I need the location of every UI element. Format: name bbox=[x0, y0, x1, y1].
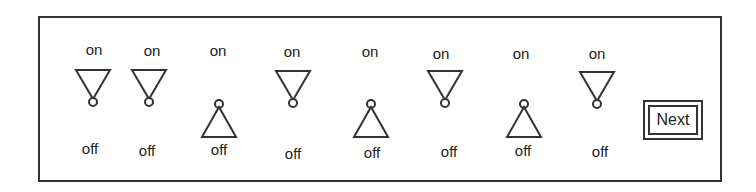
triangle-down-icon bbox=[75, 69, 111, 109]
switch-7-on-label: on bbox=[513, 46, 530, 61]
switch-3-on-label: on bbox=[210, 43, 227, 58]
switch-2-off-label: off bbox=[139, 143, 155, 158]
switch-3-toggle[interactable] bbox=[201, 98, 237, 138]
next-button[interactable]: Next bbox=[643, 100, 703, 140]
triangle-down-icon bbox=[131, 69, 167, 109]
switch-7-toggle[interactable] bbox=[506, 98, 542, 138]
switch-1-off-label: off bbox=[82, 141, 98, 156]
triangle-down-icon bbox=[275, 70, 311, 110]
switch-2-on-label: on bbox=[144, 43, 161, 58]
switch-4-on-label: on bbox=[284, 44, 301, 59]
switch-8-toggle[interactable] bbox=[579, 71, 615, 111]
switch-6-off-label: off bbox=[441, 144, 457, 159]
switch-5-toggle[interactable] bbox=[353, 98, 389, 138]
switch-6-toggle[interactable] bbox=[427, 70, 463, 110]
triangle-up-icon bbox=[201, 98, 237, 138]
switch-6-on-label: on bbox=[433, 46, 450, 61]
switch-8-on-label: on bbox=[589, 46, 606, 61]
switch-1-on-label: on bbox=[86, 42, 103, 57]
switch-2-toggle[interactable] bbox=[131, 69, 167, 109]
switch-3-off-label: off bbox=[211, 142, 227, 157]
next-button-label: Next bbox=[648, 105, 698, 135]
switch-5-off-label: off bbox=[364, 145, 380, 160]
triangle-up-icon bbox=[506, 98, 542, 138]
switch-8-off-label: off bbox=[592, 144, 608, 159]
triangle-up-icon bbox=[353, 98, 389, 138]
switch-4-off-label: off bbox=[285, 146, 301, 161]
switch-7-off-label: off bbox=[515, 143, 531, 158]
switch-5-on-label: on bbox=[362, 44, 379, 59]
triangle-down-icon bbox=[427, 70, 463, 110]
triangle-down-icon bbox=[579, 71, 615, 111]
switch-1-toggle[interactable] bbox=[75, 69, 111, 109]
switch-4-toggle[interactable] bbox=[275, 70, 311, 110]
